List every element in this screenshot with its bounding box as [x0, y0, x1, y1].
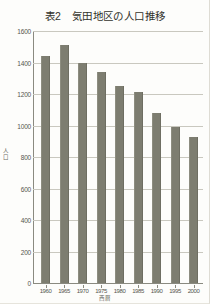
y-tick-label: 600: [3, 186, 31, 193]
gridline-0-baseline: [33, 283, 203, 284]
x-axis-title: 西暦: [0, 294, 210, 302]
bar-2000: [189, 137, 198, 283]
chart-title: 表2 気田地区の人口推移: [0, 8, 210, 23]
bar-1980: [115, 86, 124, 283]
bar-1990: [152, 113, 161, 283]
bar-1995: [171, 127, 180, 283]
y-tick-label: 1200: [3, 91, 31, 98]
bar-1985: [134, 92, 143, 283]
y-tick-label: 400: [3, 217, 31, 224]
y-tick-label: 1400: [3, 60, 31, 67]
y-tick-label: 1600: [3, 28, 31, 35]
bar-1975: [97, 72, 106, 283]
y-axis-title: 人口: [3, 148, 9, 160]
y-tick-label: 0: [3, 280, 31, 287]
chart-page: 表2 気田地区の人口推移 1600 1400 1200 1000 800 600…: [0, 0, 210, 304]
bar-1965: [60, 45, 69, 283]
plot-area: [33, 31, 203, 283]
bar-1960: [41, 56, 50, 283]
gridline-1400: [33, 63, 203, 64]
gridline-1600: [33, 31, 203, 32]
bar-1970: [78, 63, 87, 284]
y-tick-label: 1000: [3, 123, 31, 130]
y-tick-label: 200: [3, 249, 31, 256]
